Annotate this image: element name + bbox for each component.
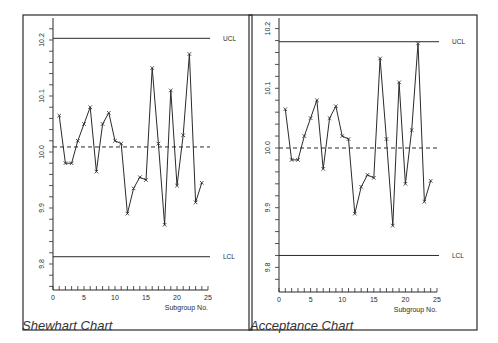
y-tick-label: 9.8 <box>264 262 271 272</box>
x-tick-label: 10 <box>111 294 119 301</box>
lcl-label: LCL <box>452 252 464 259</box>
acceptance-chart-caption: Acceptance Chart <box>250 318 353 333</box>
y-tick-label: 10.1 <box>264 81 271 95</box>
y-tick-label: 10.0 <box>264 141 271 155</box>
chart-frame <box>23 15 252 330</box>
x-tick-label: 25 <box>204 294 212 301</box>
shewhart-chart-caption: Shewhart Chart <box>22 318 112 333</box>
control-charts-figure: 9.89.910.010.110.20510152025Subgroup No.… <box>0 0 498 343</box>
chart-frame <box>249 15 477 330</box>
x-tick-label: 5 <box>82 294 86 301</box>
y-tick-label: 9.9 <box>264 203 271 213</box>
x-marker-icon <box>138 175 142 179</box>
x-tick-label: 15 <box>370 296 378 303</box>
x-tick-label: 20 <box>173 294 181 301</box>
x-marker-icon <box>366 173 370 177</box>
y-tick-label: 9.9 <box>38 203 45 213</box>
y-tick-label: 10.1 <box>38 89 45 103</box>
x-tick-label: 25 <box>433 296 441 303</box>
y-tick-label: 10.2 <box>264 22 271 36</box>
x-tick-label: 20 <box>402 296 410 303</box>
lcl-label: LCL <box>223 253 235 260</box>
x-tick-label: 10 <box>338 296 346 303</box>
acceptance-chart: 9.89.910.010.110.20510152025Subgroup No.… <box>249 15 477 330</box>
x-tick-label: 5 <box>309 296 313 303</box>
data-line <box>59 54 202 225</box>
y-tick-label: 9.8 <box>38 259 45 269</box>
x-tick-label: 0 <box>51 294 55 301</box>
y-tick-label: 10.2 <box>38 33 45 47</box>
data-line <box>285 44 430 226</box>
x-tick-label: 0 <box>277 296 281 303</box>
shewhart-chart: 9.89.910.010.110.20510152025Subgroup No.… <box>23 15 252 330</box>
x-tick-label: 15 <box>142 294 150 301</box>
x-axis-label: Subgroup No. <box>165 304 208 312</box>
x-axis-label: Subgroup No. <box>394 306 437 314</box>
ucl-label: UCL <box>452 38 465 45</box>
y-tick-label: 10.0 <box>38 145 45 159</box>
ucl-label: UCL <box>223 35 236 42</box>
